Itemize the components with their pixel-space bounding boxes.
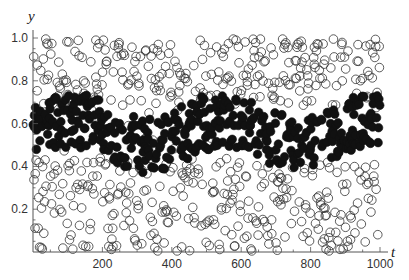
scatter-plot: 2004006008001000 0.20.40.60.81.0 t y (0, 0, 409, 280)
x-tick-label: 400 (162, 257, 182, 271)
x-tick-label: 600 (231, 257, 251, 271)
x-tick-label: 1000 (367, 257, 394, 271)
y-tick-label: 0.8 (11, 74, 28, 88)
y-tick-label: 0.2 (11, 202, 28, 216)
y-tick-label: 0.6 (11, 117, 28, 131)
y-tick-label: 0.4 (11, 159, 28, 173)
x-tick-label: 800 (301, 257, 321, 271)
x-axis-label: t (391, 244, 396, 260)
x-ticks: 2004006008001000 (50, 247, 393, 271)
y-tick-label: 1.0 (11, 31, 28, 45)
x-tick-label: 200 (92, 257, 112, 271)
y-axis-label: y (26, 8, 35, 24)
